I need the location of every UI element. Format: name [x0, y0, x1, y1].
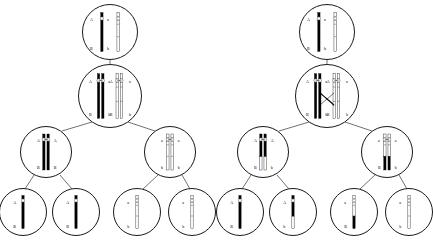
allele-label-top-left: A: [306, 80, 309, 84]
panel-no-crossing-over: ABabAABBaabbAABBaabbABABabab: [0, 0, 216, 240]
allele-label-bottom: b: [399, 225, 401, 229]
allele-label-top: a: [127, 201, 129, 205]
cell-r2b: aaBb: [361, 126, 413, 178]
allele-label-bottom-right: B: [54, 166, 57, 170]
allele-label-top: A: [90, 18, 93, 22]
allele-label-bottom: B: [66, 225, 69, 229]
allele-label-top-left: a: [161, 139, 163, 143]
allele-label-bottom: b: [283, 225, 285, 229]
allele-label-bottom: B: [230, 225, 233, 229]
allele-label-bottom: b: [127, 225, 129, 229]
allele-label-bottom-left: b: [325, 113, 327, 117]
cell-r3b: Ab: [269, 188, 317, 236]
meiosis-diagram: ABabAABBaabbAABBaabbABABabab ABabAABBaab…: [0, 0, 433, 240]
allele-label-top-left: A: [37, 139, 40, 143]
cell-l2a: AABB: [20, 126, 72, 178]
allele-label-top: a: [182, 201, 184, 205]
chromosome-group: [21, 127, 71, 177]
allele-label-top: a: [399, 201, 401, 205]
chromosome-group: [296, 65, 358, 127]
allele-label-top-left: a: [325, 80, 327, 84]
cell-r1: AABBaabb: [295, 64, 359, 128]
chromosome-group: [145, 127, 195, 177]
cell-r2a: AABb: [237, 126, 289, 178]
allele-label-bottom: b: [182, 225, 184, 229]
allele-label-top-right: A: [54, 139, 57, 143]
cell-l2b: aabb: [144, 126, 196, 178]
cell-l3c: ab: [113, 188, 161, 236]
chromosome-group: [238, 127, 288, 177]
allele-label-bottom-right: b: [129, 113, 131, 117]
cell-r3c: aB: [330, 188, 378, 236]
allele-label-top-left: a: [378, 139, 380, 143]
chromosome-group: [169, 189, 215, 235]
chromosome-group: [217, 189, 263, 235]
allele-label-bottom: b: [107, 47, 109, 51]
allele-label-top: a: [324, 18, 326, 22]
allele-label-bottom: B: [307, 47, 310, 51]
cell-r0: ABab: [299, 4, 355, 60]
allele-label-bottom-left: B: [89, 113, 92, 117]
allele-label-top-left: A: [254, 139, 257, 143]
allele-label-top-right: A: [271, 139, 274, 143]
allele-label-top-right: a: [395, 139, 397, 143]
chromosome-group: [0, 189, 46, 235]
allele-label-bottom-left: B: [254, 166, 257, 170]
allele-label-bottom: B: [13, 225, 16, 229]
allele-label-top-right: a: [346, 80, 348, 84]
allele-label-bottom: b: [324, 47, 326, 51]
allele-label-top: A: [307, 18, 310, 22]
allele-label-bottom-right: b: [178, 166, 180, 170]
allele-label-bottom: B: [344, 225, 347, 229]
chromosome-group: [386, 189, 432, 235]
allele-label-bottom-left: B: [37, 166, 40, 170]
allele-label-top-right: A: [327, 80, 330, 84]
allele-label-top-left: A: [89, 80, 92, 84]
allele-label-top: a: [107, 18, 109, 22]
allele-label-top: A: [13, 201, 16, 205]
allele-label-bottom: B: [90, 47, 93, 51]
cell-r3d: ab: [385, 188, 433, 236]
cell-l3a: AB: [0, 188, 47, 236]
allele-label-top: a: [344, 201, 346, 205]
allele-label-bottom-right: b: [346, 113, 348, 117]
allele-label-top-right: a: [129, 80, 131, 84]
chromosome-group: [114, 189, 160, 235]
allele-label-bottom-right: b: [271, 166, 273, 170]
allele-label-bottom-left: b: [108, 113, 110, 117]
cell-l3b: AB: [52, 188, 100, 236]
allele-label-bottom-right: b: [395, 166, 397, 170]
cell-r3a: AB: [216, 188, 264, 236]
allele-label-top-right: a: [178, 139, 180, 143]
cell-l0: ABab: [82, 4, 138, 60]
allele-label-top-right: A: [110, 80, 113, 84]
allele-label-top: A: [230, 201, 233, 205]
chromosome-group: [270, 189, 316, 235]
cell-l3d: ab: [168, 188, 216, 236]
chromosome-group: [331, 189, 377, 235]
chromosome-group: [362, 127, 412, 177]
chromosome-group: [53, 189, 99, 235]
panel-with-crossing-over: ABabAABBaabbAABbaaBbABAbaBab: [217, 0, 433, 240]
chromosome-group: [79, 65, 141, 127]
allele-label-bottom-left: B: [378, 166, 381, 170]
allele-label-bottom-left: B: [306, 113, 309, 117]
allele-label-top: A: [66, 201, 69, 205]
allele-label-top: A: [283, 201, 286, 205]
allele-label-bottom-left: b: [161, 166, 163, 170]
allele-label-top-left: a: [108, 80, 110, 84]
cell-l1: AABBaabb: [78, 64, 142, 128]
